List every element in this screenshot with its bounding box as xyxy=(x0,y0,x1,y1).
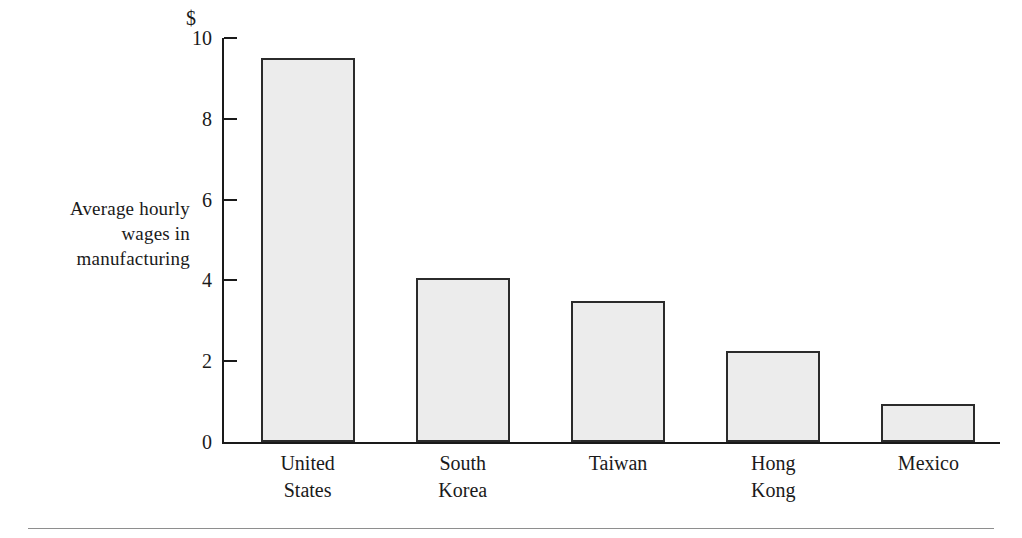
bar xyxy=(261,58,355,442)
x-axis-line xyxy=(222,442,1000,444)
currency-symbol: $ xyxy=(186,8,196,28)
x-axis-category-labels: UnitedStatesSouthKoreaTaiwanHongKongMexi… xyxy=(222,450,1000,510)
chart-figure: Average hourly wages in manufacturing $ … xyxy=(0,0,1022,538)
x-category-label: UnitedStates xyxy=(230,450,385,504)
y-tick-label-2: 2 xyxy=(202,351,212,371)
y-tick-label-4: 4 xyxy=(202,270,212,290)
y-axis-title: Average hourly wages in manufacturing xyxy=(10,196,190,271)
x-category-label-line: Korea xyxy=(385,477,540,504)
x-category-label: Mexico xyxy=(851,450,1006,477)
x-category-label: Taiwan xyxy=(540,450,695,477)
y-axis-title-line-1: Average hourly xyxy=(10,196,190,221)
bar-series xyxy=(224,38,1000,442)
x-category-label: SouthKorea xyxy=(385,450,540,504)
x-category-label-line: Hong xyxy=(696,450,851,477)
bar xyxy=(571,301,665,442)
bar xyxy=(726,351,820,442)
x-category-label-line: United xyxy=(230,450,385,477)
bar xyxy=(416,278,510,442)
y-axis-title-line-3: manufacturing xyxy=(10,246,190,271)
y-tick-label-0: 0 xyxy=(202,432,212,452)
bar xyxy=(881,404,975,442)
x-category-label-line: Taiwan xyxy=(540,450,695,477)
y-tick-label-6: 6 xyxy=(202,190,212,210)
y-tick-label-8: 8 xyxy=(202,109,212,129)
x-category-label-line: States xyxy=(230,477,385,504)
x-category-label: HongKong xyxy=(696,450,851,504)
y-tick-label-10: 10 xyxy=(192,28,212,48)
plot-area: $ 0246810 xyxy=(222,38,1000,444)
x-category-label-line: South xyxy=(385,450,540,477)
y-axis-title-line-2: wages in xyxy=(10,221,190,246)
footer-divider xyxy=(28,528,994,529)
x-category-label-line: Mexico xyxy=(851,450,1006,477)
x-category-label-line: Kong xyxy=(696,477,851,504)
